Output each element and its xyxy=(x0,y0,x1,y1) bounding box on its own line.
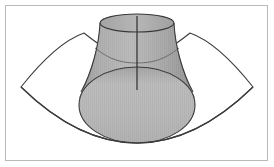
geometry-figure-panel xyxy=(0,0,274,167)
geometry-figure-canvas xyxy=(0,0,274,167)
